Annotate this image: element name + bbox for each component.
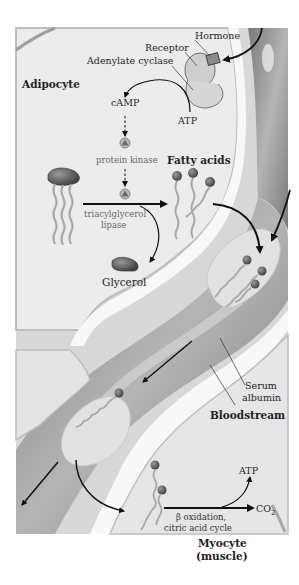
label-camp: cAMP <box>111 97 140 108</box>
label-lipase-2: lipase <box>101 220 126 230</box>
label-atp-myocyte: ATP <box>238 465 259 476</box>
label-receptor: Receptor <box>145 42 189 53</box>
label-glycerol: Glycerol <box>102 276 147 288</box>
label-atp-adipocyte: ATP <box>177 115 198 126</box>
label-adenylate-cyclase: Adenylate cyclase <box>86 55 174 66</box>
label-protein-kinase: protein kinase <box>96 155 158 165</box>
label-myocyte: Myocyte <box>198 537 247 549</box>
label-bloodstream: Bloodstream <box>210 409 285 421</box>
vessel-highlight <box>262 44 274 72</box>
protein-kinase-icon-2 <box>120 189 130 199</box>
label-muscle: (muscle) <box>196 550 248 562</box>
label-citric-acid-cycle: citric acid cycle <box>164 523 232 533</box>
label-beta-oxidation: β oxidation, <box>176 512 226 522</box>
label-fatty-acids: Fatty acids <box>167 154 231 166</box>
protein-kinase-icon-1 <box>120 138 130 148</box>
label-adipocyte: Adipocyte <box>21 78 80 90</box>
label-hormone: Hormone <box>195 30 240 41</box>
label-albumin: albumin <box>242 392 281 403</box>
fatty-acid-mobilization-diagram: Hormone Receptor Adenylate cyclase Adipo… <box>0 0 299 585</box>
label-lipase-1: triacylglycerol <box>84 209 146 219</box>
label-serum: Serum <box>245 380 277 391</box>
diagram-canvas: Hormone Receptor Adenylate cyclase Adipo… <box>0 0 299 585</box>
